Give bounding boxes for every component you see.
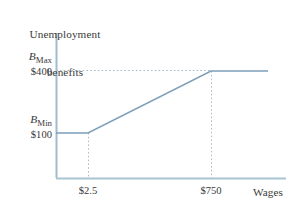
unemployment-benefit-chart: Unemployment benefits Wages BMax $400 BM… bbox=[0, 0, 304, 213]
y-tick-symbol-bmin-subscript: Min bbox=[37, 118, 52, 128]
y-tick-symbol-bmax-subscript: Max bbox=[36, 55, 52, 65]
chart-title-line-1: Unemployment bbox=[11, 28, 119, 41]
y-tick-symbol-bmax: BMax bbox=[4, 50, 52, 65]
x-axis-label: Wages bbox=[253, 186, 283, 199]
x-tick-label-750: $750 bbox=[184, 185, 238, 196]
y-tick-symbol-bmax-base: B bbox=[29, 50, 36, 62]
x-tick-label-2point5: $2.5 bbox=[61, 185, 115, 196]
y-tick-value-bmin: $100 bbox=[4, 129, 52, 140]
y-tick-value-bmax: $400 bbox=[4, 66, 52, 77]
y-tick-symbol-bmin: BMin bbox=[4, 113, 52, 128]
